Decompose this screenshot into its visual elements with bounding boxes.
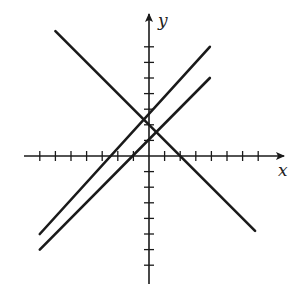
- line-ascending-lower: [40, 78, 210, 250]
- line-ascending-upper: [40, 47, 210, 234]
- y-axis: [144, 14, 154, 284]
- x-axis-label: x: [278, 160, 288, 180]
- plotted-lines: [40, 31, 255, 249]
- line-descending: [55, 31, 255, 231]
- coordinate-plane: x y: [0, 0, 290, 291]
- x-axis: [24, 151, 284, 161]
- y-axis-label: y: [157, 10, 168, 30]
